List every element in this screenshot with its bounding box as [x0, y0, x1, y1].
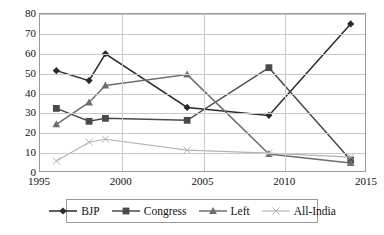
x-axis-tick-label: 2010: [262, 176, 306, 187]
gridline-horizontal: [40, 133, 365, 134]
x-axis: 19952000200520102015: [0, 176, 384, 192]
x-axis-tick-label: 2015: [344, 176, 384, 187]
y-axis-tick-label: 20: [2, 127, 36, 138]
line-chart: 01020304050607080 19952000200520102015 B…: [0, 0, 384, 235]
chart-legend: BJPCongressLeftAll-India: [66, 199, 318, 223]
data-point-marker: [53, 105, 60, 112]
legend-item-left[interactable]: Left: [198, 205, 250, 217]
gridline-horizontal: [40, 14, 365, 15]
x-axis-tick-label: 2000: [99, 176, 143, 187]
legend-item-bjp[interactable]: BJP: [48, 205, 100, 217]
triangle-marker-icon: [198, 205, 228, 217]
plot-area: [39, 13, 366, 172]
data-point-marker: [266, 64, 273, 71]
gridline-vertical: [122, 14, 123, 171]
data-point-marker: [102, 115, 109, 122]
y-axis-tick-label: 70: [2, 28, 36, 39]
y-axis-tick-label: 40: [2, 88, 36, 99]
legend-item-all-india[interactable]: All-India: [261, 205, 336, 217]
x-axis-tick-label: 2005: [181, 176, 225, 187]
data-point-marker: [85, 77, 92, 84]
gridline-horizontal: [40, 113, 365, 114]
y-axis-tick-label: 10: [2, 147, 36, 158]
data-point-marker: [184, 117, 191, 124]
diamond-marker-icon: [48, 205, 78, 217]
x-axis-tick-label: 1995: [17, 176, 61, 187]
data-point-marker: [52, 120, 60, 127]
y-axis-tick-label: 30: [2, 107, 36, 118]
x-marker-icon: [261, 205, 291, 217]
gridline-horizontal: [40, 54, 365, 55]
y-axis-tick-label: 80: [2, 8, 36, 19]
legend-item-congress[interactable]: Congress: [111, 205, 187, 217]
gridline-horizontal: [40, 34, 365, 35]
y-axis-tick-label: 60: [2, 48, 36, 59]
gridline-vertical: [285, 14, 286, 171]
gridline-horizontal: [40, 153, 365, 154]
gridline-horizontal: [40, 74, 365, 75]
legend-label: Left: [231, 205, 250, 217]
data-point-marker: [86, 118, 93, 125]
data-point-marker: [53, 157, 60, 164]
y-axis-tick-label: 50: [2, 68, 36, 79]
legend-label: BJP: [81, 205, 100, 217]
legend-label: All-India: [294, 205, 336, 217]
legend-label: Congress: [144, 205, 187, 217]
y-axis: 01020304050607080: [0, 0, 36, 235]
square-marker-icon: [111, 205, 141, 217]
gridline-horizontal: [40, 94, 365, 95]
gridline-vertical: [204, 14, 205, 171]
